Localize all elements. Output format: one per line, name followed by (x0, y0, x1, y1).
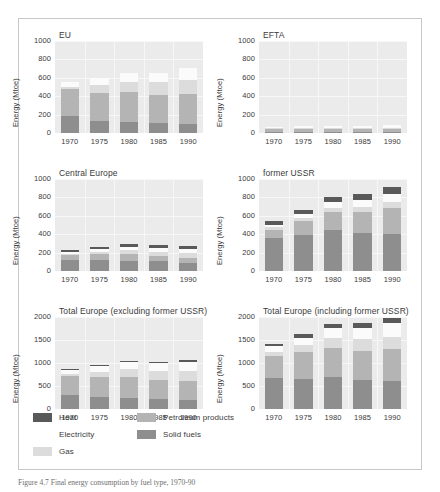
bar-segment (324, 202, 342, 208)
x-tick-label: 1985 (144, 137, 174, 146)
x-tick-label: 1970 (259, 275, 289, 284)
y-tick-label: 400 (21, 91, 51, 100)
x-tick-label: 1980 (318, 137, 348, 146)
gridline-vertical (144, 179, 145, 271)
bar-segment (294, 334, 312, 338)
bar-segment (294, 345, 312, 352)
bar-segment (149, 362, 167, 364)
y-tick-label: 500 (21, 381, 51, 390)
bar-segment (324, 212, 342, 229)
bar (120, 179, 138, 271)
y-axis-label: Energy (Mtoe) (11, 216, 20, 265)
chart-panel: 1970197519801985199002004006008001000Ene… (19, 19, 423, 471)
y-tick-label: 800 (225, 192, 255, 201)
bar-segment (265, 128, 283, 132)
gridline (259, 96, 407, 97)
bar (383, 179, 401, 271)
bar-segment (120, 122, 138, 133)
plot-area (55, 179, 203, 271)
bar-segment (61, 374, 79, 377)
bar-segment (324, 128, 342, 132)
bar-segment (353, 129, 371, 132)
bar-segment (120, 377, 138, 398)
y-tick-label: 600 (225, 73, 255, 82)
bar (149, 317, 167, 409)
bar-segment (353, 323, 371, 328)
bar-segment (61, 250, 79, 252)
bar-segment (383, 125, 401, 128)
gridline (259, 197, 407, 198)
bar-segment (353, 212, 371, 233)
bar-segment (324, 208, 342, 212)
gridline (259, 216, 407, 217)
gridline (55, 340, 203, 341)
bar-segment (120, 73, 138, 82)
bar (61, 179, 79, 271)
bar-segment (120, 261, 138, 271)
gridline (55, 179, 203, 180)
bar-segment (324, 132, 342, 133)
plot-area (259, 317, 407, 409)
bar-segment (179, 263, 197, 271)
x-tick-label: 1990 (173, 137, 203, 146)
bar-segment (179, 371, 197, 381)
chart-panel: 1970197519801985199002004006008001000Ene… (19, 19, 423, 471)
legend-label: Electricity (59, 430, 94, 439)
bar-segment (353, 328, 371, 340)
bar (61, 41, 79, 133)
gridline (259, 363, 407, 364)
panel-title: EU (59, 30, 71, 40)
bar-segment (383, 208, 401, 234)
gridline-vertical (377, 317, 378, 409)
bar-segment (383, 187, 401, 193)
y-tick-label: 1000 (21, 174, 51, 183)
x-tick-label: 1975 (289, 137, 319, 146)
bar-segment (324, 324, 342, 328)
bar-segment (179, 381, 197, 400)
bar-segment (179, 362, 197, 371)
bar (179, 41, 197, 133)
y-tick-label: 800 (21, 54, 51, 63)
gridline (259, 179, 407, 180)
bar-segment (90, 366, 108, 372)
legend-item: Electricity (33, 430, 94, 439)
y-tick-label: 200 (21, 248, 51, 257)
bar-segment (179, 253, 197, 258)
bar-segment (149, 73, 167, 83)
bar-segment (353, 351, 371, 380)
bar-segment (265, 225, 283, 228)
bar (149, 41, 167, 133)
y-tick-label: 2000 (225, 312, 255, 321)
gridline-vertical (85, 179, 86, 271)
y-tick-label: 0 (21, 128, 51, 137)
x-tick-label: 1975 (85, 137, 115, 146)
bar-segment (61, 370, 79, 374)
panel-title: EFTA (263, 30, 285, 40)
bar-segment (120, 244, 138, 247)
chart-panel: 197019751980198519900500100015002000Ener… (19, 19, 423, 471)
bar-segment (294, 210, 312, 215)
x-tick-label: 1985 (348, 275, 378, 284)
bar-segment (149, 256, 167, 261)
gridline-vertical (318, 41, 319, 133)
legend-label: Petroleum products (163, 413, 234, 422)
bar (353, 41, 371, 133)
bar (265, 317, 283, 409)
legend-swatch (137, 413, 156, 422)
bar-segment (383, 128, 401, 129)
gridline-vertical (377, 41, 378, 133)
bar-segment (179, 94, 197, 123)
bar (324, 41, 342, 133)
bar-segment (383, 337, 401, 350)
gridline (55, 216, 203, 217)
bar-segment (61, 89, 79, 116)
bar (90, 179, 108, 271)
bar (294, 317, 312, 409)
bar-segment (90, 252, 108, 255)
bar (324, 317, 342, 409)
bar-segment (353, 132, 371, 133)
x-tick-label: 1975 (85, 275, 115, 284)
bar-segment (324, 230, 342, 271)
bar-segment (265, 132, 283, 133)
bar-segment (324, 197, 342, 202)
